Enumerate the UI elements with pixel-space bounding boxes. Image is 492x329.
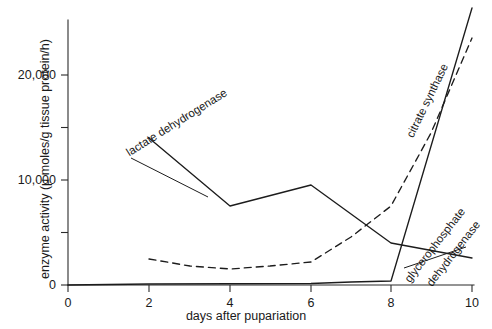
y-axis-ticks [61, 75, 68, 285]
chart-figure: 0 10,000 20,000 0 2 4 6 8 10 enzyme acti… [0, 0, 492, 329]
x-tick-label-4: 4 [227, 296, 234, 310]
x-tick-label-2: 2 [146, 296, 153, 310]
series-lactate-dehydrogenase [149, 138, 472, 258]
chart-canvas [0, 0, 492, 329]
x-tick-label-6: 6 [308, 296, 315, 310]
x-axis-ticks [68, 285, 472, 292]
x-axis-label: days after pupariation [0, 309, 492, 323]
series-citrate-synthase [149, 38, 472, 269]
x-tick-label-8: 8 [388, 296, 395, 310]
y-axis-label: enzyme activity (μ moles/g tissue protei… [38, 9, 52, 309]
x-tick-label-10: 10 [465, 296, 479, 310]
x-tick-label-0: 0 [65, 296, 72, 310]
